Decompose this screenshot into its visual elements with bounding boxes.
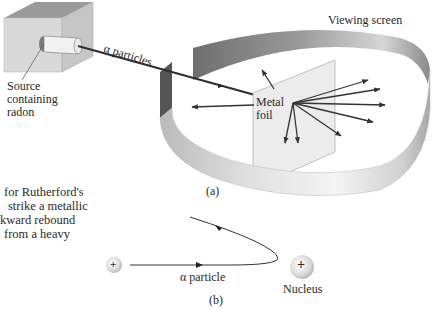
caption-line-1: for Rutherford's: [4, 185, 84, 200]
metal-foil-label-line2: foil: [256, 109, 273, 122]
caption-line-2: strike a metallic: [8, 199, 88, 214]
viewing-screen-label: Viewing screen: [328, 14, 402, 27]
caption-line-3: kward rebound: [0, 213, 75, 228]
nucleus-label: Nucleus: [283, 283, 322, 296]
alpha-particle-label: α particle: [180, 271, 225, 284]
source-label-line3: radon: [7, 106, 34, 119]
source-box: [4, 2, 93, 80]
nucleus-charge: +: [297, 258, 305, 271]
caption-line-4: from a heavy: [4, 227, 70, 242]
diagram-canvas: [0, 0, 433, 309]
alpha-charge: +: [110, 258, 116, 271]
figure-a-label: (a): [206, 185, 219, 198]
figure-b-label: (b): [209, 294, 223, 307]
rutherford-experiment-figure: Viewing screen α particles Source contai…: [0, 0, 433, 309]
